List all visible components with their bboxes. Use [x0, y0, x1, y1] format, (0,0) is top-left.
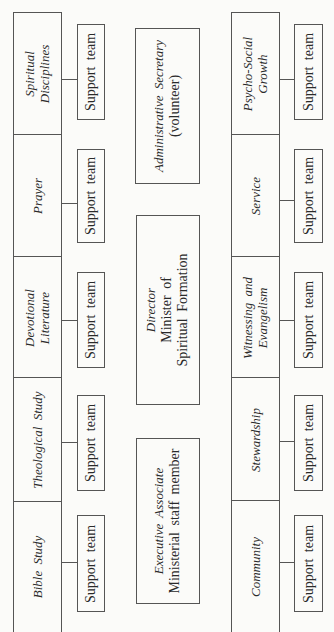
ministry-title-2: Literature: [38, 289, 53, 347]
connector-line: [61, 442, 77, 443]
support-team-box: Support team: [294, 24, 323, 120]
support-team-box: Support team: [294, 149, 323, 243]
support-team-box: Support team: [77, 395, 105, 491]
support-team-box: Support team: [294, 515, 323, 612]
director-line3: Spiritual Formation: [175, 253, 191, 366]
connector-line: [61, 79, 77, 80]
ministry-box-theological-study: Theological Study: [14, 377, 61, 501]
admin-secretary-box: Administrative Secretary(volunteer): [135, 28, 200, 184]
connector-line: [279, 562, 294, 563]
support-team-box: Support team: [294, 272, 323, 368]
ministry-title: Devotional: [23, 289, 38, 347]
ministry-box-stewardship: Stewardship: [232, 377, 279, 501]
connector-line: [279, 441, 294, 442]
executive-associate-box: Executive AssociateMinisterial staff mem…: [136, 438, 200, 604]
ministry-title: Service: [247, 177, 262, 215]
left-ministry-column: SpiritualDisciplines Prayer DevotionalLi…: [13, 12, 62, 632]
ministry-box-prayer: Prayer: [14, 134, 61, 257]
support-team-label: Support team: [300, 33, 316, 111]
support-team-box: Support team: [77, 24, 105, 120]
admin-title: Administrative Secretary: [152, 40, 167, 172]
director-line2: Minister of: [159, 253, 175, 366]
ministry-box-devotional-literature: DevotionalLiterature: [14, 256, 61, 378]
support-team-label: Support team: [83, 281, 99, 359]
connector-line: [279, 200, 294, 201]
support-team-box: Support team: [77, 149, 105, 243]
ministry-title-2: Disciplines: [38, 45, 53, 104]
right-ministry-column: Psycho-SocialGrowth Service Witnessing a…: [231, 12, 280, 632]
director-title: Director: [144, 253, 159, 366]
support-team-label: Support team: [300, 404, 316, 482]
ministry-box-bible-study: Bible Study: [14, 501, 61, 632]
support-team-label: Support team: [300, 157, 316, 235]
ministry-title: Prayer: [29, 178, 44, 214]
support-team-box: Support team: [77, 272, 105, 368]
executive-title: Executive Associate: [152, 449, 167, 594]
ministry-box-psycho-social-growth: Psycho-SocialGrowth: [232, 12, 279, 135]
ministry-box-spiritual-disciplines: SpiritualDisciplines: [14, 12, 61, 135]
support-team-label: Support team: [300, 281, 316, 359]
connector-line: [279, 79, 294, 80]
connector-line: [61, 320, 77, 321]
executive-subtitle: Ministerial staff member: [167, 449, 183, 594]
support-team-label: Support team: [83, 524, 99, 602]
connector-line: [61, 562, 77, 563]
support-team-label: Support team: [83, 157, 99, 235]
support-team-label: Support team: [83, 404, 99, 482]
ministry-title: Theological Study: [29, 391, 44, 488]
ministry-box-service: Service: [232, 134, 279, 257]
admin-subtitle: (volunteer): [167, 40, 183, 172]
ministry-title: Community: [247, 537, 262, 597]
support-team-label: Support team: [300, 524, 316, 602]
director-box: DirectorMinister ofSpiritual Formation: [136, 215, 200, 405]
ministry-title-2: Growth: [256, 37, 271, 111]
connector-line: [279, 320, 294, 321]
support-team-box: Support team: [77, 515, 105, 612]
ministry-title: Stewardship: [247, 408, 262, 472]
ministry-box-community: Community: [232, 500, 279, 632]
ministry-title: Spiritual: [23, 45, 38, 104]
support-team-label: Support team: [83, 33, 99, 111]
ministry-box-witnessing-evangelism: Witnessing andEvangelism: [232, 256, 279, 378]
ministry-title: Bible Study: [29, 536, 44, 599]
support-team-box: Support team: [294, 395, 323, 491]
connector-line: [61, 203, 77, 204]
ministry-title: Witnessing and: [241, 276, 256, 358]
ministry-title: Psycho-Social: [241, 37, 256, 111]
ministry-title-2: Evangelism: [256, 276, 271, 358]
